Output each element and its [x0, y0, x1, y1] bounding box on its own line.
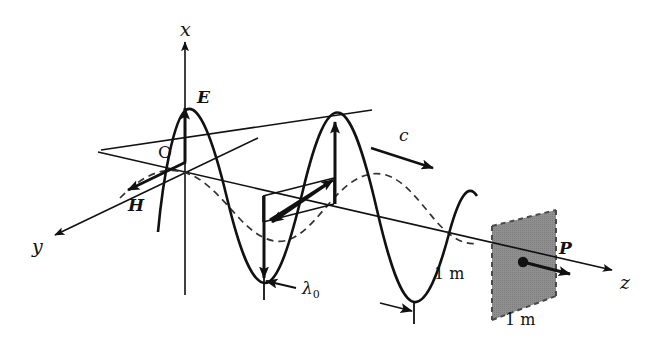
figure-canvas: x y z O E H P c λ0 1 m 1 m: [0, 0, 658, 348]
plane-width-label: 1 m: [505, 310, 535, 329]
em-wave-diagram: [0, 0, 658, 348]
h-vector-label: H: [128, 195, 144, 215]
axis-y: [55, 138, 258, 235]
axis-y-label: y: [32, 235, 43, 257]
axis-z: [98, 152, 612, 270]
wavelength-subscript: 0: [313, 288, 320, 301]
axis-x-label: x: [180, 18, 191, 40]
h-vector-trough-arrow: [272, 182, 330, 222]
plane-height-label: 1 m: [434, 264, 464, 283]
wavelength-symbol: λ: [302, 278, 313, 298]
wavelength-measure: [264, 278, 414, 324]
p-vector-label: P: [559, 238, 572, 258]
propagation-speed-label: c: [399, 125, 409, 145]
e-vector-label: E: [197, 87, 210, 107]
e-field-wave: [158, 109, 477, 302]
wavelength-label: λ0: [302, 278, 320, 301]
origin-label: O: [158, 142, 172, 162]
axis-z-label: z: [620, 271, 630, 293]
propagation-arrow: [371, 148, 433, 168]
